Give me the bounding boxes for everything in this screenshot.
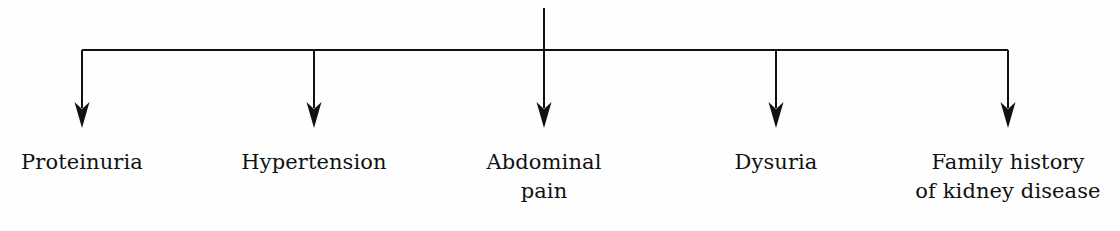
connector-layer bbox=[75, 8, 1016, 128]
flowchart-connectors bbox=[0, 0, 1120, 231]
flowchart-diagram: ProteinuriaHypertensionAbdominalpainDysu… bbox=[0, 0, 1120, 231]
